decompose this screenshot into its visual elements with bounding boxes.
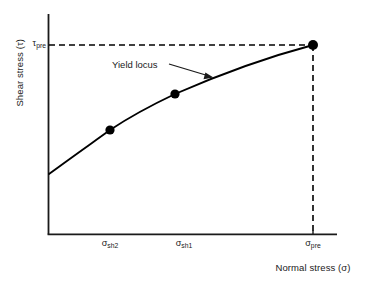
yield-locus-chart: Shear stress (τ) Normal stress (σ) τpre … — [0, 0, 380, 283]
y-axis-title: Shear stress (τ) — [15, 13, 25, 133]
sigma-subscript: sh2 — [107, 242, 118, 249]
x-axis-title: Normal stress (σ) — [253, 263, 373, 273]
data-point-marker — [308, 40, 318, 50]
sigma-subscript: sh1 — [181, 242, 192, 249]
data-point-marker — [105, 125, 114, 134]
sigma-subscript: pre — [311, 242, 321, 249]
yield-locus-annotation-label: Yield locus — [112, 60, 158, 70]
yield-locus-arrow-shaft — [169, 64, 209, 76]
x-tick-label-sigma-sh2: σsh2 — [75, 239, 145, 248]
y-tick-label-tau-pre: τpre — [12, 39, 46, 48]
tau-subscript: pre — [36, 42, 46, 49]
data-point-marker — [170, 89, 179, 98]
x-tick-label-sigma-pre: σpre — [278, 239, 348, 248]
yield-locus-curve — [49, 45, 313, 174]
x-tick-label-sigma-sh1: σsh1 — [149, 239, 219, 248]
